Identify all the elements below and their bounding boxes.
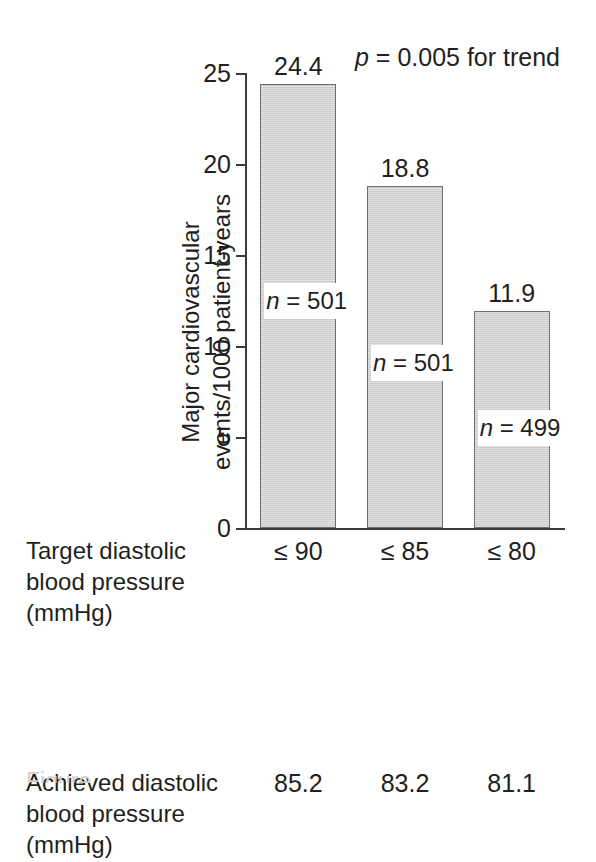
bottom-data-table: Target diastolic blood pressure (mmHg) ≤… xyxy=(0,536,596,744)
y-axis-title-line-1: Major cardiovascular xyxy=(175,117,206,547)
table-row-target-label-line-1: Target diastolic xyxy=(26,536,186,567)
plot-area: Major cardiovascular events/1000 patient… xyxy=(245,73,565,530)
n-value: = 501 xyxy=(386,349,453,376)
table-cell-target-value: ≤ 90 xyxy=(274,536,322,567)
y-axis-tick-label: 10 xyxy=(203,334,231,359)
bar-sample-size-label: n = 499 xyxy=(478,410,565,446)
bar-sample-size-label: n = 501 xyxy=(371,345,458,381)
n-symbol: n xyxy=(266,287,279,314)
x-axis-line xyxy=(245,528,565,530)
table-cell-achieved-value: 83.2 xyxy=(381,768,430,799)
table-cell-achieved-value: 81.1 xyxy=(487,768,536,799)
p-value-annotation: p = 0.005 for trend xyxy=(355,45,560,70)
table-row-target: Target diastolic blood pressure (mmHg) ≤… xyxy=(0,536,596,640)
y-axis-tick-label: 5 xyxy=(217,425,231,450)
y-axis-tick-label: 20 xyxy=(203,152,231,177)
table-row-achieved-label-line-3: (mmHg) xyxy=(26,830,218,861)
n-value: = 499 xyxy=(493,414,560,441)
p-symbol: p xyxy=(355,43,369,71)
table-row-target-label: Target diastolic blood pressure (mmHg) xyxy=(26,536,186,629)
y-axis-tick-label: 25 xyxy=(203,61,231,86)
n-value: = 501 xyxy=(280,287,347,314)
bar-value-label: 11.9 xyxy=(488,281,535,306)
n-symbol: n xyxy=(373,349,386,376)
table-cell-target-value: ≤ 85 xyxy=(381,536,429,567)
y-axis-tick: 5 xyxy=(236,437,245,439)
table-row-achieved-label-line-2: blood pressure xyxy=(26,799,218,830)
table-row-target-cells: ≤ 90≤ 85≤ 80 xyxy=(245,536,565,568)
y-axis-tick: 10 xyxy=(236,346,245,348)
y-axis-tick: 0 xyxy=(236,528,245,530)
y-axis-tick: 25 xyxy=(236,73,245,75)
n-symbol: n xyxy=(480,414,493,441)
table-cell-target-value: ≤ 80 xyxy=(487,536,535,567)
y-axis-line xyxy=(245,73,247,530)
bar-value-label: 24.4 xyxy=(274,54,323,79)
bar-sample-size-label: n = 501 xyxy=(264,283,351,319)
y-axis-tick-label: 15 xyxy=(203,243,231,268)
y-axis-tick: 15 xyxy=(236,255,245,257)
y-axis-tick: 20 xyxy=(236,164,245,166)
figure-caption-cutoff: Figure xyxy=(26,770,326,783)
bar-value-label: 18.8 xyxy=(381,156,430,181)
p-value-text: = 0.005 for trend xyxy=(369,43,560,71)
table-row-target-label-line-3: (mmHg) xyxy=(26,598,186,629)
table-row-target-label-line-2: blood pressure xyxy=(26,567,186,598)
